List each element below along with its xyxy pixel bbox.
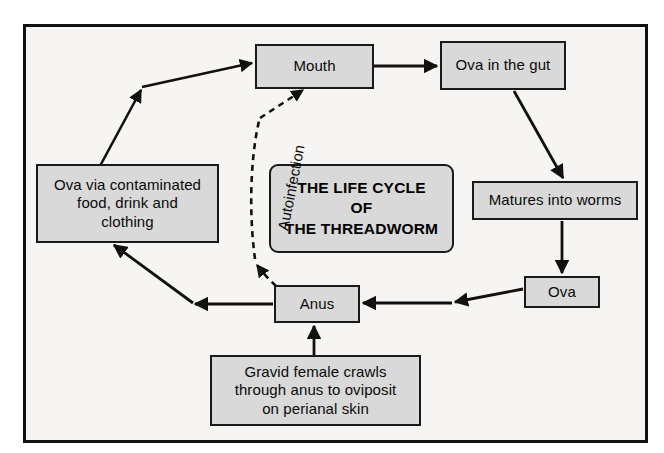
node-ova-via-contaminated-line2: food, drink and [77, 194, 178, 211]
node-anus[interactable]: Anus [274, 285, 360, 323]
node-ova-via-contaminated-label: Ova via contaminated food, drink and clo… [50, 176, 205, 231]
node-matures-into-worms[interactable]: Matures into worms [472, 181, 638, 220]
node-matures-into-worms-label: Matures into worms [485, 191, 626, 209]
node-ova-in-gut[interactable]: Ova in the gut [440, 41, 566, 90]
node-gravid-female-line3: on perianal skin [262, 400, 369, 417]
node-gravid-female[interactable]: Gravid female crawls through anus to ovi… [210, 355, 421, 426]
diagram-canvas: Mouth Ova in the gut Ova via contaminate… [0, 0, 664, 453]
node-mouth[interactable]: Mouth [255, 44, 374, 89]
diagram-title-line2: OF [351, 199, 373, 216]
node-anus-label: Anus [296, 295, 339, 313]
arrow-ova-in-gut-to-matures [514, 91, 563, 178]
arrow-anus-to-contaminated [114, 245, 273, 304]
node-gravid-female-line2: through anus to oviposit [235, 381, 397, 398]
diagram-title-line3: THE THREADWORM [285, 220, 438, 237]
node-mouth-label: Mouth [289, 57, 339, 75]
node-gravid-female-line1: Gravid female crawls [244, 363, 386, 380]
arrow-ova-to-anus [363, 289, 523, 303]
node-ova-label: Ova [544, 283, 580, 301]
diagram-title-line1: THE LIFE CYCLE [297, 179, 426, 196]
arrow-contaminated-to-mouth [100, 63, 252, 166]
node-ova-via-contaminated-line1: Ova via contaminated [54, 176, 201, 193]
node-ova-via-contaminated[interactable]: Ova via contaminated food, drink and clo… [36, 164, 219, 243]
node-gravid-female-label: Gravid female crawls through anus to ovi… [231, 363, 401, 418]
diagram-title-text: THE LIFE CYCLE OF THE THREADWORM [285, 178, 438, 238]
node-ova[interactable]: Ova [524, 276, 600, 308]
node-ova-via-contaminated-line3: clothing [101, 213, 154, 230]
node-ova-in-gut-label: Ova in the gut [452, 56, 555, 74]
